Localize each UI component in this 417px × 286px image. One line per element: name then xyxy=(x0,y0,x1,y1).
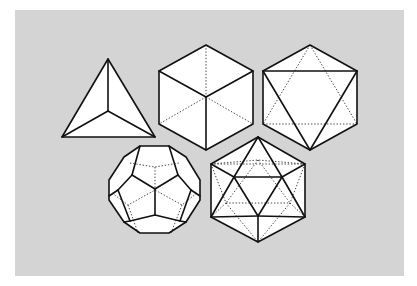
dodecahedron xyxy=(109,146,200,233)
cube xyxy=(159,45,253,150)
platonic-solids-diagram xyxy=(0,0,417,286)
tetrahedron xyxy=(62,59,155,137)
octahedron xyxy=(263,45,357,150)
icosahedron xyxy=(211,137,305,242)
